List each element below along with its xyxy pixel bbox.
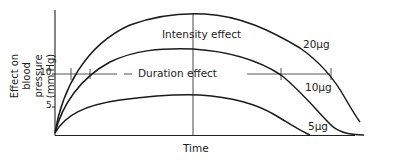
- series-label-20ug: 20μg: [303, 38, 330, 50]
- y-tick-label-10: 10: [40, 67, 51, 77]
- x-axis-label: Time: [183, 142, 209, 154]
- y-axis-label: Effect on blood pressure (mm Hg): [0, 0, 40, 161]
- intensity-effect-label: Intensity effect: [162, 28, 241, 40]
- series-label-5ug: 5μg: [308, 120, 328, 132]
- chart-canvas: [0, 0, 393, 161]
- y-tick-label-5: 5: [46, 100, 52, 110]
- duration-effect-label: Duration effect: [138, 67, 217, 79]
- curve-5ug: [55, 95, 310, 135]
- series-label-10ug: 10μg: [305, 81, 332, 93]
